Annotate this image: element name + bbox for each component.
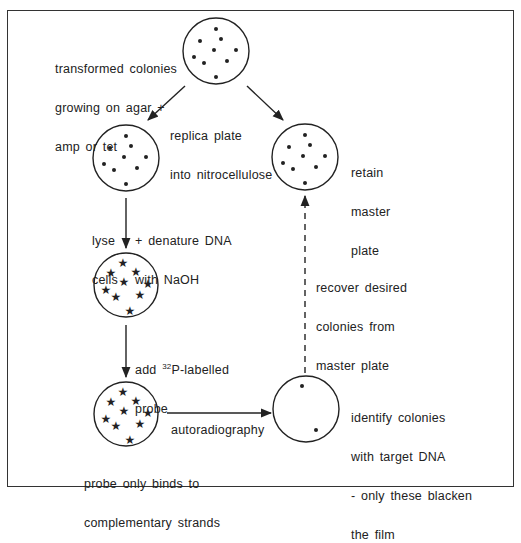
- colony-dot-icon: [303, 181, 307, 185]
- colony-dot-icon: [225, 59, 229, 63]
- colony-dot-icon: [291, 167, 295, 171]
- label-replica-plate: replica plate into nitrocellulose: [170, 104, 272, 195]
- label-lyse-cells: lyse cells: [92, 209, 118, 300]
- label-retain-master-plate: retain master plate: [351, 141, 390, 271]
- colony-dot-icon: [202, 61, 206, 65]
- colony-dot-icon: [323, 154, 327, 158]
- labelled-colony-star-icon: ★: [125, 433, 136, 447]
- colony-dot-icon: [301, 154, 305, 158]
- colony-dot-icon: [192, 55, 196, 59]
- label-autoradiography: autoradiography: [171, 398, 264, 450]
- label-identify-colonies: identify colonies with target DNA - only…: [351, 386, 472, 543]
- labelled-colony-star-icon: ★: [119, 275, 130, 289]
- colony-dot-icon: [112, 168, 116, 172]
- colony-dot-icon: [314, 428, 318, 432]
- colony-dot-icon: [308, 143, 312, 147]
- labelled-colony-star-icon: ★: [111, 419, 122, 433]
- colony-dot-icon: [214, 75, 218, 79]
- colony-dot-icon: [124, 182, 128, 186]
- colony-dot-icon: [198, 39, 202, 43]
- labelled-colony-star-icon: ★: [119, 404, 130, 418]
- colony-dot-icon: [314, 165, 318, 169]
- label-probe-binds: probe only binds to complementary strand…: [84, 452, 220, 543]
- colony-dot-icon: [300, 384, 304, 388]
- labelled-colony-star-icon: ★: [106, 395, 117, 409]
- colony-dot-icon: [234, 48, 238, 52]
- colony-dot-icon: [287, 145, 291, 149]
- labelled-colony-star-icon: ★: [118, 385, 129, 399]
- colony-dot-icon: [212, 48, 216, 52]
- colony-dot-icon: [219, 37, 223, 41]
- colony-dot-icon: [281, 161, 285, 165]
- labelled-colony-star-icon: ★: [118, 256, 129, 270]
- petri-plate-start-plate: [183, 18, 249, 84]
- labelled-colony-star-icon: ★: [125, 304, 136, 318]
- colony-dot-icon: [214, 27, 218, 31]
- petri-plate-master-plate: [272, 124, 338, 190]
- label-recover-colonies: recover desired colonies from master pla…: [316, 256, 407, 386]
- label-transformed-colonies: transformed colonies growing on agar + a…: [55, 37, 177, 167]
- colony-dot-icon: [303, 133, 307, 137]
- label-denature-dna: + denature DNA with NaOH: [135, 209, 232, 300]
